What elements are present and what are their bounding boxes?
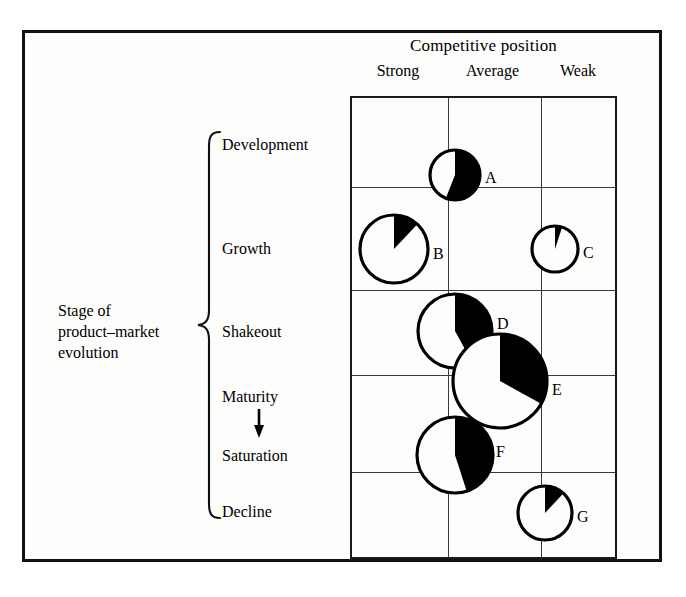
x-axis-title: Competitive position [350,36,617,56]
bubble-c [529,223,581,275]
stage-label-saturation: Saturation [222,447,288,465]
column-header-weak: Weak [539,62,617,80]
bubble-label-a: A [485,169,497,187]
bubble-label-d: D [497,315,509,333]
stage-brace [196,130,222,520]
bubble-label-b: B [433,245,444,263]
stage-label-maturity: Maturity [222,388,278,406]
stage-label-development: Development [222,136,308,154]
bubble-label-e: E [552,381,562,399]
column-header-average: Average [446,62,539,80]
figure-root: Competitive position Strong Average Weak… [0,0,686,597]
bubble-b [357,212,431,286]
stage-label-growth: Growth [222,240,271,258]
stage-label-shakeout: Shakeout [222,323,282,341]
bubble-label-g: G [577,508,589,526]
y-axis-title-line-3: evolution [58,342,159,363]
grid-row-divider-1 [352,187,615,188]
stage-label-decline: Decline [222,503,272,521]
bubble-f [414,414,496,496]
column-header-strong: Strong [350,62,446,80]
bubble-label-f: F [496,443,505,461]
bubble-label-c: C [583,244,594,262]
down-arrow-icon [252,409,266,439]
y-axis-title: Stage of product–market evolution [58,300,159,363]
bubble-g [515,483,575,543]
bubble-a [427,147,483,203]
y-axis-title-line-2: product–market [58,321,159,342]
y-axis-title-line-1: Stage of [58,300,159,321]
